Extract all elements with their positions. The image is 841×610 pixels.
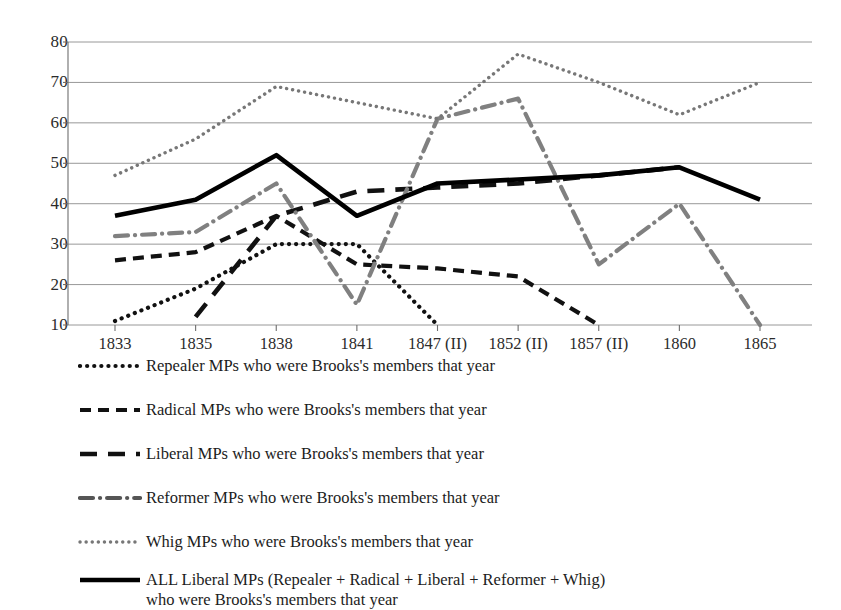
x-tick-label-7: 1860 bbox=[663, 334, 696, 354]
x-tick-label-6: 1857 (II) bbox=[569, 334, 628, 354]
legend-item-liberal: Liberal MPs who were Brooks's members th… bbox=[78, 444, 484, 464]
chart-canvas bbox=[0, 0, 841, 350]
legend-label: ALL Liberal MPs (Repealer + Radical + Li… bbox=[146, 570, 616, 610]
legend-item-repealer: Repealer MPs who were Brooks's members t… bbox=[78, 356, 495, 376]
long-dash-line-swatch bbox=[78, 445, 142, 463]
fine-dotted-line-swatch bbox=[78, 533, 142, 551]
x-tick-label-3: 1841 bbox=[340, 334, 373, 354]
x-tick-label-5: 1852 (II) bbox=[489, 334, 548, 354]
x-tick-label-8: 1865 bbox=[744, 334, 777, 354]
legend-label: Reformer MPs who were Brooks's members t… bbox=[146, 488, 500, 508]
legend-item-all_liberal: ALL Liberal MPs (Repealer + Radical + Li… bbox=[78, 570, 616, 610]
chart-legend: Repealer MPs who were Brooks's members t… bbox=[0, 352, 841, 581]
series-line-all_liberal bbox=[115, 155, 760, 216]
axes bbox=[63, 42, 760, 331]
dotted-line-swatch bbox=[78, 357, 142, 375]
x-tick-label-0: 1833 bbox=[99, 334, 132, 354]
x-tick-label-2: 1838 bbox=[260, 334, 293, 354]
legend-item-reformer: Reformer MPs who were Brooks's members t… bbox=[78, 488, 500, 508]
series-line-whig bbox=[115, 54, 760, 175]
dash-dot-line-swatch bbox=[78, 489, 142, 507]
solid-line-swatch bbox=[78, 571, 142, 589]
legend-label: Repealer MPs who were Brooks's members t… bbox=[146, 356, 495, 376]
series-line-reformer bbox=[115, 99, 760, 325]
legend-label: Whig MPs who were Brooks's members that … bbox=[146, 532, 473, 552]
legend-label: Radical MPs who were Brooks's members th… bbox=[146, 400, 487, 420]
x-tick-label-1: 1835 bbox=[179, 334, 212, 354]
legend-label: Liberal MPs who were Brooks's members th… bbox=[146, 444, 484, 464]
legend-item-whig: Whig MPs who were Brooks's members that … bbox=[78, 532, 473, 552]
plot-area: 80 70 60 50 40 30 20 10 1833183518381841… bbox=[0, 0, 841, 350]
dashed-line-swatch bbox=[78, 401, 142, 419]
legend-item-radical: Radical MPs who were Brooks's members th… bbox=[78, 400, 487, 420]
x-tick-label-4: 1847 (II) bbox=[408, 334, 467, 354]
